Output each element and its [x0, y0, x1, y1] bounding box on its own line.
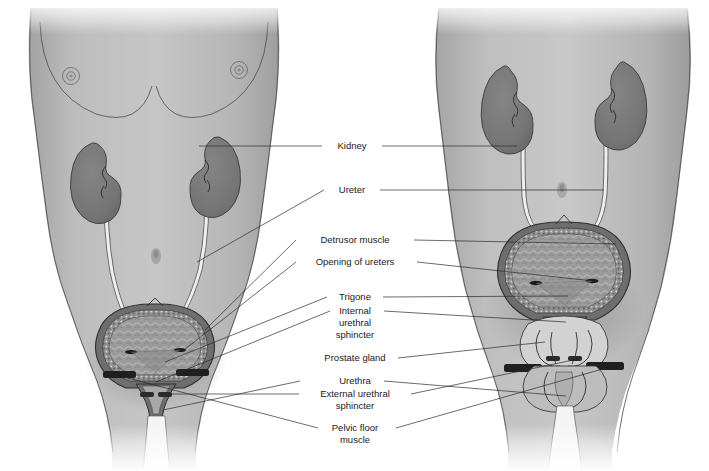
external-sphincter-bar-right-male: [568, 356, 582, 361]
label-urethra[interactable]: Urethra: [339, 375, 371, 386]
label-ureter[interactable]: Ureter: [339, 184, 365, 195]
label-kidney[interactable]: Kidney: [337, 140, 366, 151]
label-internal-urethral-sphincter-line2[interactable]: urethral: [339, 317, 371, 328]
label-prostate-gland[interactable]: Prostate gland: [324, 352, 385, 363]
male-top-fade: [424, 0, 708, 34]
external-sphincter-bar-left-male: [546, 356, 560, 361]
label-pelvic-floor-muscle-line1[interactable]: Pelvic floor: [332, 422, 378, 433]
label-internal-urethral-sphincter-line3[interactable]: sphincter: [336, 329, 375, 340]
pelvic-floor-bar-right-female: [176, 369, 209, 376]
external-sphincter-bar-left-female: [140, 392, 154, 397]
label-opening-of-ureters[interactable]: Opening of ureters: [316, 256, 395, 267]
male-bottom-fade: [424, 424, 708, 471]
label-detrusor-muscle[interactable]: Detrusor muscle: [320, 234, 389, 245]
external-sphincter-bar-right-female: [158, 392, 172, 397]
label-internal-urethral-sphincter-line1[interactable]: Internal: [339, 305, 371, 316]
female-top-fade: [14, 0, 294, 34]
label-external-urethral-sphincter-line1[interactable]: External urethral: [320, 388, 390, 399]
pelvic-floor-bar-left-female: [103, 371, 136, 378]
anatomy-illustration: Kidney Ureter Detrusor muscle Opening of…: [0, 0, 709, 471]
label-pelvic-floor-muscle-line2[interactable]: muscle: [340, 434, 370, 445]
label-trigone[interactable]: Trigone: [339, 291, 371, 302]
label-external-urethral-sphincter-line2[interactable]: sphincter: [336, 400, 375, 411]
female-bottom-fade: [14, 424, 294, 471]
anatomy-figure: Kidney Ureter Detrusor muscle Opening of…: [0, 0, 709, 471]
